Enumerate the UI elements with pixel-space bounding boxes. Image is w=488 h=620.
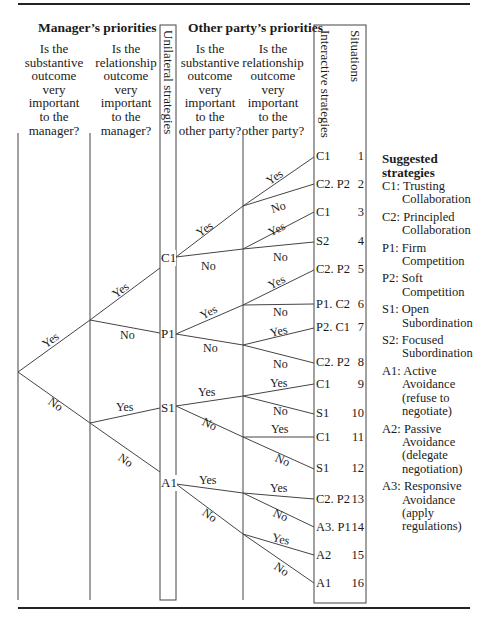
legend-text: Firm <box>402 241 426 255</box>
situation-number: 15 <box>352 548 365 563</box>
branch-label: Yes <box>270 481 287 496</box>
legend-text: Avoidance <box>382 436 486 449</box>
legend-title: Suggested strategies <box>382 152 486 180</box>
situation-row: C2. P213 <box>316 492 364 507</box>
legend-item-s2: S2: FocusedSubordination <box>382 334 486 361</box>
situation-strategy: A1 <box>316 576 331 590</box>
legend-text: Subordination <box>382 317 486 330</box>
situation-row: C2. P25 <box>316 262 364 277</box>
situation-number: 7 <box>358 320 364 335</box>
situation-row: A116 <box>316 576 364 591</box>
situation-strategy: P1. C2 <box>316 297 350 311</box>
legend-item-p1: P1: FirmCompetition <box>382 242 486 269</box>
situation-number: 14 <box>352 520 365 535</box>
legend-text: Open <box>402 302 429 316</box>
legend-code: A3: <box>382 479 401 493</box>
situation-strategy: A2 <box>316 548 331 562</box>
situation-strategy: C1 <box>316 377 331 391</box>
legend-code: C2: <box>382 210 400 224</box>
situation-number: 16 <box>352 576 365 591</box>
legend-text: (delegate <box>382 449 486 462</box>
branch-label: No <box>273 250 288 265</box>
branch-label: No <box>273 305 288 320</box>
legend-code: S2: <box>382 333 399 347</box>
legend-code: S1: <box>382 302 399 316</box>
unilateral-node-a1: A1 <box>161 475 177 491</box>
legend-item-s1: S1: OpenSubordination <box>382 303 486 330</box>
legend-text: negotiate) <box>382 405 486 418</box>
situation-number: 6 <box>358 297 364 312</box>
situation-row: C11 <box>316 149 364 164</box>
legend-text: Responsive <box>404 479 462 493</box>
branch-label: Yes <box>271 422 288 437</box>
legend-code: A1: <box>382 364 401 378</box>
situation-number: 13 <box>352 492 365 507</box>
legend-text: (apply <box>382 507 486 520</box>
situation-row: C19 <box>316 377 364 392</box>
situation-strategy: C2. P2 <box>316 177 350 191</box>
situation-row: S112 <box>316 461 364 476</box>
legend-item-c1: C1: TrustingCollaboration <box>382 180 486 207</box>
legend-item-c2: C2: PrincipledCollaboration <box>382 211 486 238</box>
situation-row: P2. C17 <box>316 320 364 335</box>
situation-strategy: S1 <box>316 406 329 420</box>
legend-code: C1: <box>382 179 400 193</box>
legend-item-a1: A1: ActiveAvoidance(refuse tonegotiate) <box>382 365 486 419</box>
branch-label: Yes <box>270 376 287 391</box>
legend-code: A2: <box>382 422 401 436</box>
legend-text: Avoidance <box>382 494 486 507</box>
situation-row: C13 <box>316 205 364 220</box>
strategy-decision-tree: Manager’s priorities Other party’s prior… <box>0 0 488 620</box>
branch-label: No <box>273 404 288 419</box>
situation-number: 8 <box>358 355 364 370</box>
situation-row: C2. P22 <box>316 177 364 192</box>
legend-code: P1: <box>382 241 399 255</box>
legend-title-line: Suggested <box>382 152 486 166</box>
legend-text: Active <box>403 364 436 378</box>
situation-strategy: P2. C1 <box>316 320 350 334</box>
legend-text: Avoidance <box>382 378 486 391</box>
situation-strategy: S1 <box>316 461 329 475</box>
legend-text: Passive <box>404 422 442 436</box>
unilateral-strategies-label: Unilateral strategies <box>160 30 176 134</box>
legend-text: negotiation) <box>382 463 486 476</box>
legend-text: Competition <box>382 255 486 268</box>
unilateral-node-s1: S1 <box>161 400 175 416</box>
situation-row: C2. P28 <box>316 355 364 370</box>
unilateral-node-p1: P1 <box>161 326 175 342</box>
legend-item-p2: P2: SoftCompetition <box>382 272 486 299</box>
branch-label: Yes <box>199 473 216 488</box>
situation-number: 2 <box>358 177 364 192</box>
situation-strategy: A3. P1 <box>316 520 351 534</box>
legend-text: Principled <box>403 210 454 224</box>
interactive-strategies-label: Interactive strategies <box>317 30 333 138</box>
situation-strategy: C2. P2 <box>316 492 350 506</box>
suggested-strategies-legend: Suggested strategies C1: TrustingCollabo… <box>382 152 486 534</box>
legend-text: Collaboration <box>382 193 486 206</box>
legend-item-a2: A2: PassiveAvoidance(delegatenegotiation… <box>382 423 486 477</box>
legend-text: Collaboration <box>382 224 486 237</box>
situation-strategy: S2 <box>316 234 329 248</box>
branch-label: Yes <box>116 400 133 415</box>
situation-row: S24 <box>316 234 364 249</box>
branch-label: No <box>273 357 288 372</box>
branch-label: Yes <box>198 385 215 400</box>
situation-number: 9 <box>358 377 364 392</box>
legend-text: Trusting <box>403 179 445 193</box>
legend-text: regulations) <box>382 520 486 533</box>
situation-row: S110 <box>316 406 364 421</box>
situation-number: 12 <box>352 461 365 476</box>
legend-text: Soft <box>402 271 423 285</box>
branch-label: No <box>201 259 216 274</box>
situation-number: 4 <box>358 234 364 249</box>
situation-number: 5 <box>358 262 364 277</box>
situation-number: 1 <box>358 149 364 164</box>
situation-row: P1. C26 <box>316 297 364 312</box>
situation-row: C111 <box>316 430 364 445</box>
branch-label: No <box>203 341 218 356</box>
situation-strategy: C1 <box>316 205 331 219</box>
situation-number: 11 <box>352 430 364 445</box>
legend-title-line: strategies <box>382 166 486 180</box>
legend-text: Subordination <box>382 347 486 360</box>
situation-row: A3. P114 <box>316 520 364 535</box>
